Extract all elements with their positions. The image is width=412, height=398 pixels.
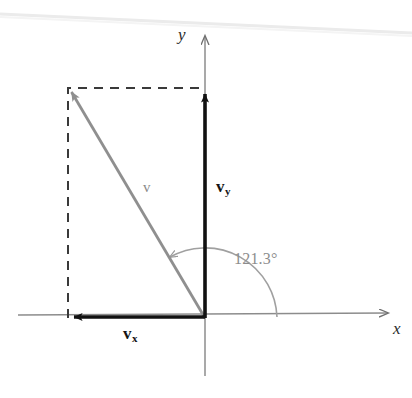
y-axis-label: y [178, 26, 186, 43]
angle-value-label: 121.3° [234, 251, 278, 267]
resultant-vector-label: v [143, 180, 151, 195]
vector-diagram-canvas [0, 0, 412, 398]
scan-edge-artifact [0, 14, 412, 33]
vy-label-symbol: v [216, 177, 225, 196]
vy-label-subscript: y [225, 185, 231, 197]
vy-label: vy [216, 178, 230, 195]
vx-label-subscript: x [132, 332, 138, 344]
x-axis-label: x [393, 320, 401, 337]
scan-edge-artifact-secondary [0, 17, 412, 36]
vx-label-symbol: v [123, 324, 132, 343]
resultant-vector-v [72, 92, 206, 318]
vector-decomposition-figure: y x vy vx v 121.3° [0, 0, 412, 398]
vx-label: vx [123, 325, 137, 342]
